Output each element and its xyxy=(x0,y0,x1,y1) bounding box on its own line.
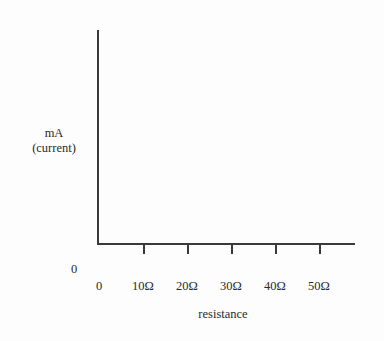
x-axis-tick-label-10: 10Ω xyxy=(132,279,154,294)
y-axis-title-line-1: mA xyxy=(45,126,64,140)
chart-canvas: mA (current) 0 0 10Ω 20Ω 30Ω 40Ω 50Ω res… xyxy=(0,0,384,341)
x-axis-tick-label-50: 50Ω xyxy=(308,279,330,294)
y-axis-title-line-2: (current) xyxy=(22,141,86,156)
y-axis-line xyxy=(97,30,99,245)
x-axis-tick xyxy=(231,245,233,254)
x-axis-title-text: resistance xyxy=(198,307,247,322)
x-axis-tick xyxy=(319,245,321,254)
x-axis-line xyxy=(97,243,355,245)
x-axis-tick-label-40: 40Ω xyxy=(264,279,286,294)
x-axis-tick xyxy=(275,245,277,254)
x-axis-tick-label-0: 0 xyxy=(96,279,102,294)
x-axis-title: resistance xyxy=(0,307,384,322)
x-axis-tick xyxy=(187,245,189,254)
y-axis-origin-label: 0 xyxy=(71,262,77,277)
y-axis-title: mA (current) xyxy=(22,126,86,156)
x-axis-tick xyxy=(143,245,145,254)
x-axis-tick-label-30: 30Ω xyxy=(220,279,242,294)
x-axis-tick-label-20: 20Ω xyxy=(176,279,198,294)
